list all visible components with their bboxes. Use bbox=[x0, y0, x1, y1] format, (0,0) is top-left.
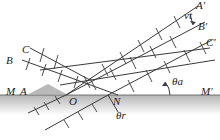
label-vt: vt bbox=[184, 10, 192, 21]
label-C-prime: C′ bbox=[206, 37, 216, 48]
label-O: O bbox=[69, 96, 77, 107]
label-M: M bbox=[6, 86, 15, 97]
ray-N-Cprime bbox=[108, 40, 212, 95]
label-A-prime: A′ bbox=[196, 0, 205, 11]
wedge-region bbox=[27, 84, 68, 95]
label-A: A bbox=[20, 86, 27, 97]
label-B: B bbox=[6, 55, 13, 66]
label-theta-a: θa bbox=[172, 76, 183, 87]
wave-diagram bbox=[0, 0, 220, 140]
label-B-prime: B′ bbox=[198, 21, 207, 32]
vt-arrowhead bbox=[190, 21, 196, 25]
label-C: C bbox=[22, 44, 29, 55]
ray-O-Bprime bbox=[66, 22, 205, 95]
ray-row3 bbox=[60, 60, 215, 85]
label-M-prime: M′ bbox=[201, 86, 213, 97]
label-N: N bbox=[113, 96, 120, 107]
label-theta-r: θr bbox=[116, 110, 126, 121]
